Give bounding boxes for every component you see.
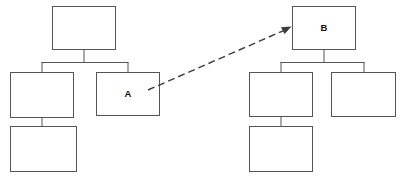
right-tree-grandchild-node[interactable] bbox=[250, 127, 313, 172]
right-tree-child-node-1[interactable] bbox=[250, 73, 313, 117]
right-tree-group: B bbox=[250, 7, 396, 172]
left-tree-child-node-1[interactable] bbox=[11, 73, 74, 118]
node-a-label: A bbox=[125, 88, 132, 99]
diagram-svg: A B bbox=[0, 0, 405, 178]
left-tree-root-node[interactable] bbox=[53, 7, 116, 50]
right-tree-child-node-2[interactable] bbox=[332, 73, 396, 117]
left-tree-grandchild-node[interactable] bbox=[11, 127, 77, 172]
left-tree-group: A bbox=[11, 7, 160, 172]
node-b-label: B bbox=[321, 22, 328, 33]
diagram-canvas: A B bbox=[0, 0, 405, 178]
